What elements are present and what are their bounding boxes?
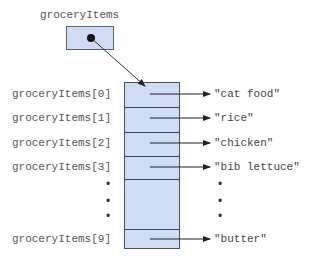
row-label: groceryItems[3] (0, 161, 111, 173)
pointer-arrow-icon (91, 38, 145, 86)
ellipsis-dot: • (106, 209, 110, 223)
element-value: "cat food" (214, 88, 280, 100)
ellipsis-dot: • (106, 194, 110, 208)
ellipsis-dot: • (218, 177, 222, 191)
ellipsis-dot: • (218, 194, 222, 208)
row-label: groceryItems[2] (0, 137, 111, 149)
element-value: "bib lettuce" (214, 161, 300, 173)
arrows-layer (0, 0, 311, 262)
element-value: "chicken" (214, 137, 273, 149)
row-label: groceryItems[0] (0, 88, 111, 100)
element-value: "butter" (214, 233, 267, 245)
element-value: "rice" (214, 112, 254, 124)
ellipsis-dot: • (106, 177, 110, 191)
ellipsis-dot: • (218, 209, 222, 223)
row-label: groceryItems[9] (0, 233, 111, 245)
row-label: groceryItems[1] (0, 112, 111, 124)
